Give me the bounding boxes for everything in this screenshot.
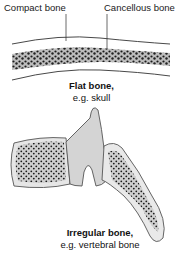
- irregular-bone-illustration: [11, 108, 164, 242]
- flat-bone-caption: Flat bone, e.g. skull: [0, 80, 183, 104]
- bone-diagram: [0, 0, 183, 262]
- irregular-bone-example: e.g. vertebral bone: [60, 239, 139, 250]
- flat-bone-example: e.g. skull: [73, 92, 111, 103]
- irregular-bone-caption: Irregular bone, e.g. vertebral bone: [50, 227, 150, 251]
- flat-bone-title: Flat bone,: [69, 80, 114, 91]
- flat-bone-illustration: [12, 37, 170, 80]
- irregular-bone-title: Irregular bone,: [67, 227, 134, 238]
